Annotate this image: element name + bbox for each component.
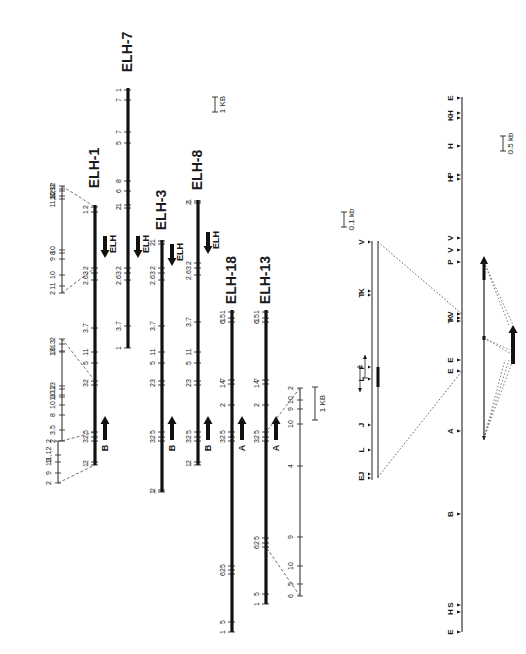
fragment-label: 3.7 xyxy=(185,317,192,327)
transcript-arrows xyxy=(480,256,518,440)
restriction-site-label: T xyxy=(446,318,455,323)
expansion-link xyxy=(62,432,95,441)
restriction-site-label: H xyxy=(446,176,455,182)
gene-arrow-elh: ELH xyxy=(101,235,119,258)
coding-segment xyxy=(377,367,380,387)
fragment-label: 3 xyxy=(253,439,260,443)
fragment-label: 5 xyxy=(149,361,156,365)
site-marker-icon xyxy=(457,316,461,319)
site-marker-icon xyxy=(457,260,461,263)
fragment-label: 4 xyxy=(287,464,294,468)
exon-link xyxy=(484,360,505,438)
fragment-label: 5 xyxy=(115,141,122,145)
site-marker-icon xyxy=(457,177,461,180)
fragment-label: 11 xyxy=(185,348,192,355)
site-marker-icon xyxy=(457,116,461,119)
site-marker-icon xyxy=(368,424,371,427)
gene-arrow-label: B xyxy=(100,444,110,451)
restriction-site-label: L xyxy=(357,447,366,452)
expansion-link xyxy=(266,388,300,432)
fragment-label: 2 xyxy=(253,403,260,407)
fragment-label: 2 xyxy=(219,568,226,572)
fragment-label: 3.7 xyxy=(82,323,89,333)
fragment-label: 13 xyxy=(45,458,52,466)
fragment-label: 5 xyxy=(253,430,260,434)
site-marker-icon xyxy=(457,610,461,613)
fragment-label: 1 xyxy=(253,602,260,606)
fragment-label: 8 xyxy=(49,251,56,255)
expansion-link xyxy=(62,268,95,293)
fragment-label: 3 xyxy=(82,383,89,387)
fragment-label: 10 xyxy=(49,271,56,279)
site-marker-icon xyxy=(368,290,371,293)
site-marker-icon xyxy=(457,173,461,176)
fragment-label: 10 xyxy=(49,401,56,409)
fragment-label: 2 xyxy=(253,435,260,439)
fragment-label: 2 xyxy=(287,386,294,390)
fragment-label: 2 xyxy=(219,403,226,407)
fragment-label: 13 xyxy=(49,348,56,356)
arrow-up-icon xyxy=(101,416,110,424)
fragment-label: 11 xyxy=(149,348,156,355)
restriction-site-label: H xyxy=(446,609,455,615)
restriction-site-label: A xyxy=(446,428,455,434)
arrow-up-icon xyxy=(272,416,281,424)
gene-arrow-b: B xyxy=(203,416,213,451)
restriction-site-label: J xyxy=(357,423,366,427)
restriction-site-label: E xyxy=(446,368,455,374)
fragment-label: 3 xyxy=(219,439,226,443)
fragment-label: 2 xyxy=(185,383,192,387)
site-marker-icon xyxy=(368,294,371,297)
fragment-label: 2 xyxy=(45,439,52,443)
fragment-label: 11 xyxy=(49,282,56,289)
fragment-label: 3 xyxy=(149,439,156,443)
fragment-label: 13 xyxy=(49,340,56,348)
site-marker-icon xyxy=(457,111,461,114)
arrow-down-icon xyxy=(358,388,362,392)
exon-link xyxy=(484,262,513,325)
fragment-label: 7 xyxy=(115,130,122,134)
site-marker-icon xyxy=(457,429,461,432)
fragment-label: 8 xyxy=(115,179,122,183)
exon-link xyxy=(484,360,509,438)
clone-elh-18: ELH-181156714252352651A xyxy=(219,256,248,634)
gene-arrow-label: B xyxy=(167,444,177,451)
transcript-short xyxy=(511,333,515,364)
gene-arrow-elh: ELH xyxy=(168,243,186,266)
fragment-label: 10 xyxy=(287,420,294,428)
restriction-site-label: P xyxy=(446,259,455,265)
clone-title: ELH-3 xyxy=(153,190,169,231)
fragment-label: 3 xyxy=(115,271,122,275)
fragment-label: 2 xyxy=(149,242,156,246)
site-marker-icon xyxy=(457,236,461,239)
fragment-label: 5 xyxy=(219,620,226,624)
site-marker-icon xyxy=(457,358,461,361)
site-marker-icon xyxy=(368,366,371,369)
fragment-label: 1 xyxy=(82,210,89,214)
gene-arrow-label: ELH xyxy=(175,243,185,261)
restriction-site-label: S xyxy=(446,602,455,608)
fragment-label: 2 xyxy=(185,261,192,265)
scale-bar-label: 0.1 kb xyxy=(347,208,356,230)
scale-bar-label: 0.5 kb xyxy=(506,132,515,154)
restriction-site-label: V xyxy=(446,235,455,241)
restriction-site-label: E xyxy=(446,357,455,363)
fragment-label: 6 xyxy=(115,189,122,193)
fragment-label: 3 xyxy=(82,271,89,275)
fragment-label: 5 xyxy=(185,361,192,365)
restriction-site-label: E xyxy=(446,95,455,101)
fragment-label: 9 xyxy=(49,257,56,261)
exon-link xyxy=(484,262,509,325)
fragment-label: 3 xyxy=(185,266,192,270)
fragment-label: 14 xyxy=(253,380,260,388)
clone-title: ELH-13 xyxy=(257,256,273,304)
ELH-13-expansion: 210910491056 xyxy=(266,386,303,598)
fragment-label: 5 xyxy=(253,536,260,540)
site-marker-icon xyxy=(368,477,371,480)
expansion-link xyxy=(58,465,95,483)
arrow-up-icon xyxy=(168,416,177,424)
fragment-label: 3.5 xyxy=(49,425,56,435)
fragment-label: 2 xyxy=(253,541,260,545)
fragment-label: 11 xyxy=(49,393,56,400)
fragment-label: 11,12 xyxy=(49,190,56,207)
